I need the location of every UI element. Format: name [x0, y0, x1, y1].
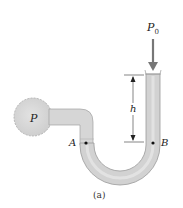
manometer-diagram: P P0 h A B (a) — [0, 0, 183, 208]
atmospheric-pressure-arrow — [148, 39, 158, 71]
pressure-label: P — [29, 112, 38, 125]
height-label: h — [130, 103, 136, 114]
point-a-dot — [84, 141, 87, 144]
atmospheric-pressure-label: P0 — [146, 21, 159, 36]
figure-caption: (a) — [93, 190, 105, 200]
point-b-label: B — [160, 137, 168, 148]
point-b-dot — [151, 141, 154, 144]
point-a-label: A — [68, 137, 76, 148]
